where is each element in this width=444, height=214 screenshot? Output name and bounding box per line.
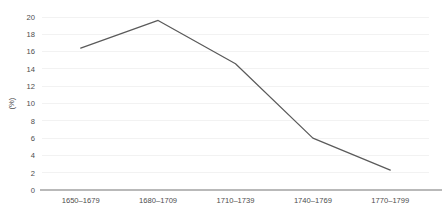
- y-axis-ticks: 02468101214161820: [27, 13, 35, 195]
- y-axis-tick-label: 6: [31, 134, 35, 143]
- data-series-line: [81, 20, 391, 170]
- y-axis-title: (%): [7, 97, 16, 109]
- x-axis-tick-label: 1650–1679: [62, 196, 100, 205]
- y-axis-tick-label: 12: [27, 82, 35, 91]
- y-axis-tick-label: 10: [27, 99, 35, 108]
- x-axis-ticks: 1650–16791680–17091710–17391740–17691770…: [62, 196, 410, 205]
- x-axis-tick-label: 1770–1799: [371, 196, 409, 205]
- x-axis-tick-label: 1740–1769: [294, 196, 332, 205]
- y-axis-tick-label: 4: [31, 151, 35, 160]
- y-axis-tick-label: 0: [31, 186, 35, 195]
- y-axis-tick-label: 20: [27, 13, 35, 22]
- line-chart: 02468101214161820 1650–16791680–17091710…: [0, 0, 444, 214]
- chart-canvas: 02468101214161820 1650–16791680–17091710…: [0, 0, 444, 214]
- y-axis-tick-label: 16: [27, 47, 35, 56]
- x-axis-tick-label: 1710–1739: [216, 196, 254, 205]
- y-axis-tick-label: 2: [31, 169, 35, 178]
- y-axis-tick-label: 8: [31, 117, 35, 126]
- gridlines: [42, 17, 429, 173]
- y-axis-tick-label: 18: [27, 30, 35, 39]
- x-axis-tick-label: 1680–1709: [139, 196, 177, 205]
- y-axis-tick-label: 14: [27, 65, 35, 74]
